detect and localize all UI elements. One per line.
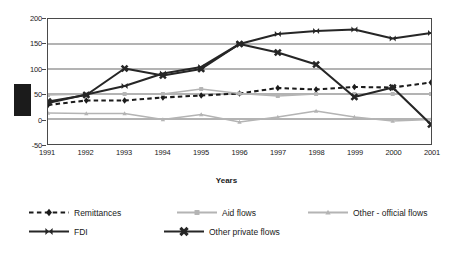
x-axis-tick-label: 2000 xyxy=(386,148,402,157)
data-point xyxy=(313,28,319,34)
legend-item-other-official-flows[interactable]: Other - official flows xyxy=(307,203,427,222)
y-axis-tick-mark xyxy=(42,69,46,70)
data-point xyxy=(428,122,431,128)
legend-label: Aid flows xyxy=(222,208,256,218)
chart-legend: RemittancesAid flowsOther - official flo… xyxy=(10,203,450,245)
legend-label: FDI xyxy=(74,227,88,237)
legend-item-aid-flows[interactable]: Aid flows xyxy=(176,203,256,222)
legend-row: FDIOther private flows xyxy=(10,222,450,241)
data-point xyxy=(46,209,52,217)
plot-area xyxy=(47,18,432,145)
legend-item-remittances[interactable]: Remittances xyxy=(28,203,121,222)
x-axis-tick-label: 1991 xyxy=(39,148,55,157)
data-point xyxy=(275,85,280,91)
data-point xyxy=(314,86,319,92)
y-axis-tick-label: 100 xyxy=(16,64,42,73)
x-axis-tick-label: 1993 xyxy=(116,148,132,157)
y-axis-tick-mark xyxy=(42,145,46,146)
data-point xyxy=(199,92,204,98)
y-axis-tick-mark xyxy=(42,120,46,121)
x-axis-title: Years xyxy=(0,176,453,185)
data-point xyxy=(391,92,395,96)
y-axis-labels: 200150100500-50 xyxy=(14,18,42,145)
data-point xyxy=(238,92,242,96)
x-axis-tick-label: 1995 xyxy=(193,148,209,157)
y-axis-tick-mark xyxy=(42,18,46,19)
data-point xyxy=(122,83,128,89)
data-point xyxy=(199,87,203,91)
data-point xyxy=(195,210,200,215)
y-axis-tick-mark xyxy=(42,43,46,44)
y-axis-tick-mark xyxy=(42,94,46,95)
legend-swatch xyxy=(28,225,70,238)
chart-figure: 200150100500-50 199119921993199419951996… xyxy=(0,0,453,255)
series-line xyxy=(48,44,431,125)
data-point xyxy=(275,31,281,37)
data-point xyxy=(428,30,431,36)
legend-label: Other private flows xyxy=(209,227,280,237)
legend-item-other-private-flows[interactable]: Other private flows xyxy=(163,222,280,241)
y-axis-tick-label: 50 xyxy=(16,90,42,99)
y-axis-tick-label: 200 xyxy=(16,14,42,23)
series-layer xyxy=(48,19,431,144)
y-axis-tick-label: 150 xyxy=(16,39,42,48)
x-axis-tick-label: 1999 xyxy=(347,148,363,157)
x-axis-tick-label: 2001 xyxy=(424,148,440,157)
x-axis-tick-label: 1998 xyxy=(309,148,325,157)
data-point xyxy=(429,79,431,85)
legend-swatch xyxy=(28,206,70,219)
data-point xyxy=(276,94,280,98)
legend-label: Other - official flows xyxy=(353,208,427,218)
data-point xyxy=(429,92,431,96)
x-axis-tick-label: 1996 xyxy=(232,148,248,157)
data-point xyxy=(352,84,357,90)
data-point xyxy=(123,92,127,96)
x-axis-tick-label: 1992 xyxy=(78,148,94,157)
x-axis-tick-label: 1997 xyxy=(270,148,286,157)
data-point xyxy=(351,27,357,33)
y-axis-tick-label: 0 xyxy=(16,115,42,124)
data-point xyxy=(122,97,127,103)
legend-swatch xyxy=(163,225,205,238)
series-other-private-flows xyxy=(48,41,431,127)
x-axis-tick-label: 1994 xyxy=(155,148,171,157)
legend-swatch xyxy=(176,206,218,219)
legend-swatch xyxy=(307,206,349,219)
data-point xyxy=(161,92,165,96)
legend-row: RemittancesAid flowsOther - official flo… xyxy=(10,203,450,222)
data-point xyxy=(390,36,396,42)
legend-item-fdi[interactable]: FDI xyxy=(28,222,88,241)
series-other-official-flows xyxy=(48,109,431,124)
x-axis-labels: 1991199219931994199519961997199819992000… xyxy=(47,148,432,160)
legend-label: Remittances xyxy=(74,208,121,218)
data-point xyxy=(48,93,50,97)
data-point xyxy=(314,92,318,96)
